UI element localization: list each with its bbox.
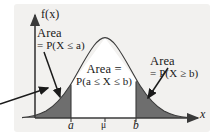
- x-axis-label-text: x: [200, 107, 205, 121]
- y-axis-label-text: f(x): [41, 7, 59, 21]
- center-annotation-line2: P(a ≤ X ≤ b): [76, 76, 132, 88]
- external-pointer-arrow: [0, 88, 48, 104]
- normal-distribution-figure: f(x) x Area = P(X ≤ a) Area = P(a ≤ X ≤ …: [0, 0, 214, 140]
- tick-label-mu: μ: [101, 120, 106, 130]
- right-annotation-line2: = P(X ≥ b): [150, 68, 198, 80]
- left-area-annotation: Area = P(X ≤ a): [37, 27, 85, 52]
- left-label-leader-arrow: [44, 52, 60, 97]
- tick-label-b: b: [133, 119, 139, 131]
- left-annotation-line2: = P(X ≤ a): [37, 40, 85, 52]
- y-axis-label: f(x): [41, 8, 59, 21]
- tick-label-a: a: [68, 119, 74, 131]
- x-axis-label: x: [200, 108, 205, 121]
- right-area-annotation: Area = P(X ≥ b): [150, 55, 198, 80]
- center-area-annotation: Area = P(a ≤ X ≤ b): [76, 63, 132, 88]
